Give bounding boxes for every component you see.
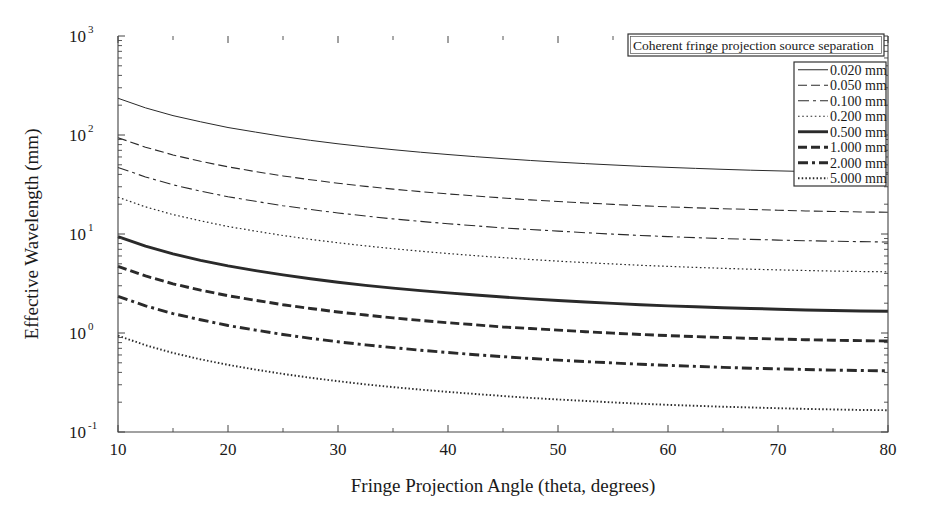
y-tick-label-mantissa: 10 (69, 27, 86, 46)
x-axis-title: Fringe Projection Angle (theta, degrees) (351, 475, 655, 497)
y-tick-label: 103 (69, 23, 94, 46)
legend-item-label: 5.000 mm (830, 171, 887, 186)
y-tick-label-mantissa: 10 (69, 423, 86, 442)
y-tick-label-mantissa: 10 (69, 126, 86, 145)
legend-item-label: 0.100 mm (830, 94, 887, 109)
series-line-0-200-mm (118, 197, 888, 272)
y-tick-label-exponent: 0 (88, 320, 94, 332)
legend-item-label: 0.200 mm (830, 109, 887, 124)
legend-item-label: 0.500 mm (830, 125, 887, 140)
legend-item-label: 1.000 mm (830, 140, 887, 155)
legend-item-label: 2.000 mm (830, 156, 887, 171)
y-tick-label-exponent: 3 (88, 23, 94, 35)
legend-item-label: 0.050 mm (830, 78, 887, 93)
x-tick-label: 20 (220, 440, 237, 459)
x-tick-label: 50 (550, 440, 567, 459)
legend-title: Coherent fringe projection source separa… (633, 38, 874, 53)
chart-axes-group (118, 36, 888, 432)
y-tick-label: 102 (69, 122, 94, 145)
y-axis-title: Effective Wavelength (mm) (21, 129, 43, 340)
series-line-0-500-mm (118, 237, 888, 312)
plot-frame (118, 36, 888, 432)
x-axis-tick-labels: 1020304050607080 (110, 440, 897, 459)
y-tick-label-mantissa: 10 (69, 324, 86, 343)
y-tick-label-mantissa: 10 (69, 225, 86, 244)
x-tick-label: 60 (660, 440, 677, 459)
series-line-1-000-mm (118, 266, 888, 341)
series-line-0-100-mm (118, 167, 888, 242)
series-line-0-050-mm (118, 138, 888, 213)
series-line-0-020-mm (118, 98, 888, 173)
y-tick-label-exponent: 1 (88, 221, 94, 233)
chart-series-group (118, 98, 888, 410)
x-tick-label: 70 (770, 440, 787, 459)
y-tick-label-exponent: -1 (88, 419, 97, 431)
x-tick-label: 10 (110, 440, 127, 459)
figure-container: 1020304050607080 10-1100101102103 Fringe… (0, 0, 942, 517)
y-tick-label-exponent: 2 (88, 122, 94, 134)
y-tick-label: 101 (69, 221, 94, 244)
series-line-5-000-mm (118, 336, 888, 411)
chart-plot-area: 1020304050607080 10-1100101102103 Fringe… (0, 0, 942, 517)
x-tick-label: 40 (440, 440, 457, 459)
series-line-2-000-mm (118, 296, 888, 371)
y-tick-label: 10-1 (69, 419, 97, 442)
legend[interactable]: Coherent fringe projection source separa… (628, 34, 887, 186)
y-tick-label: 100 (69, 320, 94, 343)
x-tick-label: 80 (880, 440, 897, 459)
y-axis-tick-labels: 10-1100101102103 (69, 23, 97, 442)
x-tick-label: 30 (330, 440, 347, 459)
legend-item-label: 0.020 mm (830, 63, 887, 78)
